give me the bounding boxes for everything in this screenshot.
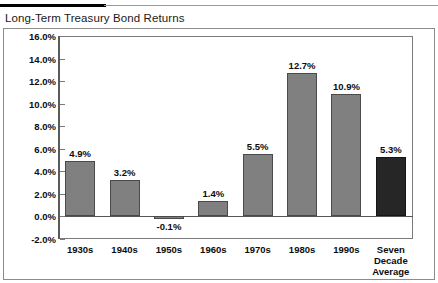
x-axis-category-label: 1950s [156, 244, 182, 255]
x-axis-category-label: 1990s [333, 244, 359, 255]
x-axis-category-label: 1940s [111, 244, 137, 255]
x-axis-category-label: 1960s [200, 244, 226, 255]
x-axis-labels: 1930s1940s1950s1960s1970s1980s1990sSeven… [0, 0, 438, 283]
x-axis-category-label: 1980s [289, 244, 315, 255]
x-axis-category-label: Seven Decade Average [372, 244, 409, 277]
chart-figure: Long-Term Treasury Bond Returns 16.0%14.… [0, 0, 438, 283]
x-axis-category-label: 1930s [67, 244, 93, 255]
x-axis-category-label: 1970s [244, 244, 270, 255]
